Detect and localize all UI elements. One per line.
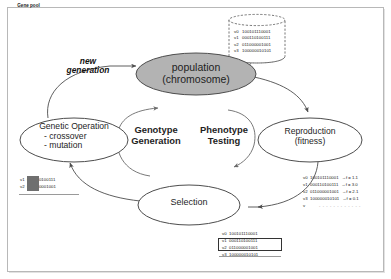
crossover-row-bits-tail: 0100111 (39, 176, 55, 183)
fitness-continuation-dots: - - - - - - - - - - - - (310, 203, 361, 210)
fitness-row-bits: 100101110001 (310, 175, 339, 182)
edge-selection-to-genetic-operation (70, 163, 140, 201)
fitness-continuation-key: v (303, 203, 310, 210)
fitness-row-value: f = 1.1 (346, 175, 358, 182)
crossover-row-bits-head: 01100 (27, 183, 39, 190)
crossover-row-bits-tail: 0001001 (39, 183, 56, 190)
fitness-row: v3100000010101 → f = 0.1 (303, 196, 361, 203)
crossover-row-key: v2 (20, 183, 27, 190)
crossover-row: v2011000001001 (20, 183, 56, 190)
fitness-row-value: f = 2.1 (346, 189, 358, 196)
fitness-row: v2011000001001 → f = 2.1 (303, 189, 361, 196)
selection-highlight-box (218, 238, 282, 251)
node-genetic-operation[interactable] (20, 118, 128, 162)
gene-pool-table: v0100101110001v1000110100111v20110000010… (234, 29, 271, 54)
crossover-row: v1000110100111 (20, 176, 56, 183)
fitness-row-arrow-icon: → (339, 189, 346, 196)
gene-pool-row-bits: 100000010101 (242, 48, 271, 54)
fitness-row-arrow-icon: → (339, 196, 346, 203)
fitness-row-bits: 000110100111 (310, 182, 338, 189)
fitness-row: v1000110100111 → f = 3.0 (303, 182, 361, 189)
crossover-row-key: v1 (20, 176, 27, 183)
edge-genetic-operation-to-population (48, 66, 136, 118)
crossover-row-bits-head: 00011 (27, 176, 39, 183)
node-reproduction[interactable] (258, 118, 362, 162)
selection-table-underline (219, 256, 281, 257)
edge-population-to-reproduction (254, 77, 308, 112)
fitness-row-key: v1 (303, 182, 310, 189)
fitness-row-value: f = 0.1 (347, 196, 359, 203)
fitness-row-key: v0 (303, 175, 310, 182)
node-population[interactable] (136, 53, 256, 95)
fitness-row: v0100101110001 → f = 1.1 (303, 175, 361, 182)
inner-arrow-phenotype-testing (228, 110, 255, 167)
diagram-canvas: population (chromosome) Genetic Operatio… (0, 0, 391, 279)
gene-pool-row: v3100000010101 (234, 48, 271, 54)
fitness-row-bits: 011000001001 (310, 189, 339, 196)
fitness-continuation-row: v- - - - - - - - - - - - (303, 203, 361, 210)
fitness-row-bits: 100000010101 (310, 196, 339, 203)
fitness-row-value: f = 3.0 (346, 182, 358, 189)
fitness-row-arrow-icon: → (338, 182, 345, 189)
crossover-table-underline (19, 194, 79, 195)
gene-pool-row-key: v3 (234, 48, 242, 54)
node-selection[interactable] (138, 185, 240, 225)
fitness-row-key: v3 (303, 196, 310, 203)
fitness-table: v0100101110001 → f = 1.1v1000110100111 →… (303, 175, 361, 210)
diagram-vector-layer (0, 0, 391, 279)
fitness-row-arrow-icon: → (339, 175, 346, 182)
crossover-table: v1000110100111v2011000001001 (20, 176, 56, 191)
fitness-row-key: v2 (303, 189, 310, 196)
